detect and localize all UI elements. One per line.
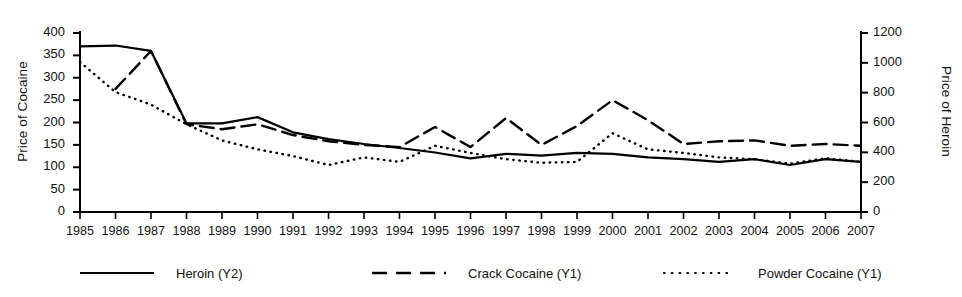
legend-label-heroin: Heroin (Y2): [176, 266, 242, 281]
legend-swatch-dotted-icon: [660, 266, 738, 280]
legend-item-powder-cocaine: Powder Cocaine (Y1): [660, 262, 882, 284]
legend-label-powder-cocaine: Powder Cocaine (Y1): [758, 266, 882, 281]
series-line: [116, 51, 862, 147]
chart-legend: Heroin (Y2) Crack Cocaine (Y1) Powder Co…: [0, 262, 962, 288]
price-trends-chart: Price of Cocaine Price of Heroin 0501001…: [0, 0, 962, 297]
legend-label-crack-cocaine: Crack Cocaine (Y1): [468, 266, 581, 281]
plot-area: [0, 0, 962, 297]
series-line: [80, 62, 861, 165]
legend-swatch-dashed-icon: [370, 266, 448, 280]
legend-item-heroin: Heroin (Y2): [78, 262, 242, 284]
legend-item-crack-cocaine: Crack Cocaine (Y1): [370, 262, 581, 284]
legend-swatch-solid-icon: [78, 266, 156, 280]
